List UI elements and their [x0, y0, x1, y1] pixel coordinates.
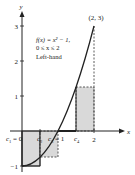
x-axis-arrow-icon — [119, 129, 125, 134]
c3-label: c3 = 1 — [48, 135, 65, 144]
c4-label: c4 — [74, 135, 80, 144]
rectangle-4 — [76, 87, 94, 131]
c1-label: c1 = 0 — [6, 135, 23, 144]
function-label-line1: f(x) = x² − 1, — [36, 36, 70, 44]
tick-label-y-1: 1 — [15, 93, 19, 101]
tick-label-x-2: 2 — [92, 136, 96, 144]
tick-label-y-neg1: −1 — [11, 163, 19, 171]
tick-label-y-3: 3 — [15, 23, 19, 31]
riemann-rectangles — [22, 87, 94, 166]
y-axis-label: y — [18, 3, 23, 11]
x-axis-label: x — [126, 128, 131, 136]
y-axis-arrow-icon — [20, 11, 25, 17]
riemann-sum-chart: y x 3 2 1 −1 2 (2, 3) f(x) = x² − 1, 0 ≤… — [0, 0, 135, 175]
function-label-line3: Left-hand — [36, 53, 62, 60]
point-label-2-3: (2, 3) — [88, 14, 104, 22]
function-label-line2: 0 ≤ x ≤ 2 — [36, 44, 59, 51]
tick-label-y-2: 2 — [15, 58, 19, 66]
